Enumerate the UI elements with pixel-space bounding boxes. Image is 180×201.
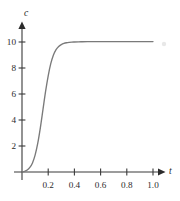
x-axis-label: t xyxy=(169,165,172,176)
x-tick-label: 0.8 xyxy=(121,180,133,190)
y-axis-arrow-icon xyxy=(18,22,25,30)
sigmoid-concentration-figure: 0.2 0.4 0.6 0.8 1.0 2 4 6 8 10 c t xyxy=(0,0,180,201)
scan-speck xyxy=(162,42,166,46)
x-tick-label: 0.4 xyxy=(69,180,81,190)
y-tick-label: 4 xyxy=(11,115,16,125)
concentration-curve xyxy=(22,42,153,172)
x-axis-arrow-icon xyxy=(158,168,166,175)
y-tick-label: 10 xyxy=(7,37,17,47)
x-tick-label: 0.2 xyxy=(42,180,54,190)
chart-canvas: 0.2 0.4 0.6 0.8 1.0 2 4 6 8 10 c t xyxy=(0,0,180,201)
y-tick-label: 6 xyxy=(11,89,16,99)
x-tick-label: 1.0 xyxy=(147,180,159,190)
y-axis-label: c xyxy=(24,7,29,18)
y-tick-label: 2 xyxy=(11,141,16,151)
y-tick-label: 8 xyxy=(11,63,16,73)
x-tick-label: 0.6 xyxy=(95,180,107,190)
